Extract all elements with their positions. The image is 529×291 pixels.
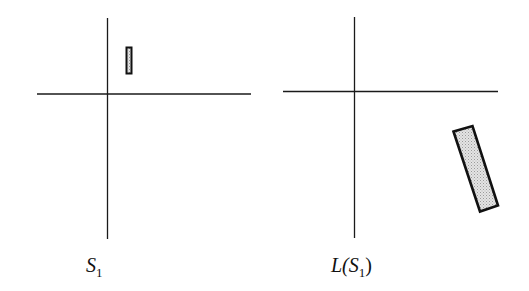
- label-set-name: S: [349, 254, 359, 276]
- left-axes: [37, 18, 251, 239]
- diagram-canvas: [0, 0, 529, 291]
- left-panel-label: S1: [86, 254, 103, 281]
- label-prefix: L(: [331, 254, 349, 276]
- label-set-name: S: [86, 254, 96, 276]
- shape-l-s1: [454, 126, 499, 212]
- right-panel-label: L(S1): [331, 254, 372, 281]
- shape-s1: [127, 48, 132, 74]
- label-subscript: 1: [96, 265, 103, 280]
- label-suffix: ): [365, 254, 372, 276]
